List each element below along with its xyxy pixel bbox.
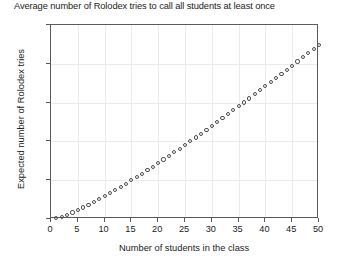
data-point [119,185,123,189]
x-tick-mark [211,218,212,222]
data-point [60,215,64,219]
x-tick-mark [238,218,239,222]
x-tick-mark [318,218,319,222]
x-tick-label: 50 [313,224,323,234]
data-point [306,51,310,55]
x-tick-mark [157,218,158,222]
data-point [151,165,155,169]
data-point [70,210,74,214]
x-tick-mark [50,218,51,222]
data-point [145,168,149,172]
data-point [86,203,90,207]
data-point [129,178,133,182]
data-point [194,135,198,139]
x-tick-label: 15 [125,224,135,234]
plot-area [50,24,318,218]
x-tick-mark [77,218,78,222]
data-point [81,205,85,209]
data-point [295,59,299,63]
x-tick-label: 0 [47,224,52,234]
data-point [76,208,80,212]
y-tick-mark [46,140,50,141]
data-point [199,132,203,136]
data-point [312,47,316,51]
chart-root: Average number of Rolodex tries to call … [0,0,347,267]
y-tick-mark [46,102,50,103]
data-point [231,108,235,112]
data-point [183,143,187,147]
data-point [156,161,160,165]
data-point [204,128,208,132]
data-point [253,92,257,96]
x-tick-label: 10 [98,224,108,234]
x-tick-mark [130,218,131,222]
data-point [263,84,267,88]
x-tick-mark [264,218,265,222]
x-tick-label: 5 [74,224,79,234]
y-axis-label: Expected number of Rolodex tries [16,19,26,219]
y-tick-mark [46,179,50,180]
data-point [188,139,192,143]
data-point [215,120,219,124]
data-point [226,112,230,116]
y-tick-mark [46,218,50,219]
data-point [178,147,182,151]
x-tick-mark [104,218,105,222]
data-point [140,172,144,176]
x-axis-label: Number of students in the class [50,243,318,253]
x-tick-label: 30 [206,224,216,234]
data-point [242,100,246,104]
data-point [135,175,139,179]
data-point [113,188,117,192]
data-point [258,88,262,92]
y-tick-mark [46,63,50,64]
data-point [65,213,69,217]
data-point [301,55,305,59]
x-tick-mark [184,218,185,222]
data-point [108,191,112,195]
data-point [210,124,214,128]
data-point [161,157,165,161]
x-tick-label: 45 [286,224,296,234]
x-tick-label: 25 [179,224,189,234]
data-point [285,68,289,72]
data-series-points [51,25,317,217]
x-tick-label: 35 [232,224,242,234]
data-point [172,150,176,154]
data-point [317,43,321,47]
data-point [274,76,278,80]
data-point [92,200,96,204]
data-point [124,182,128,186]
chart-title: Average number of Rolodex tries to call … [14,1,275,11]
data-point [290,64,294,68]
x-tick-mark [291,218,292,222]
data-point [247,96,251,100]
data-point [269,80,273,84]
x-tick-label: 40 [259,224,269,234]
x-tick-label: 20 [152,224,162,234]
data-point [103,194,107,198]
y-tick-mark [46,24,50,25]
data-point [54,216,58,220]
data-point [167,154,171,158]
data-point [97,197,101,201]
data-point [220,116,224,120]
data-point [279,72,283,76]
data-point [237,104,241,108]
